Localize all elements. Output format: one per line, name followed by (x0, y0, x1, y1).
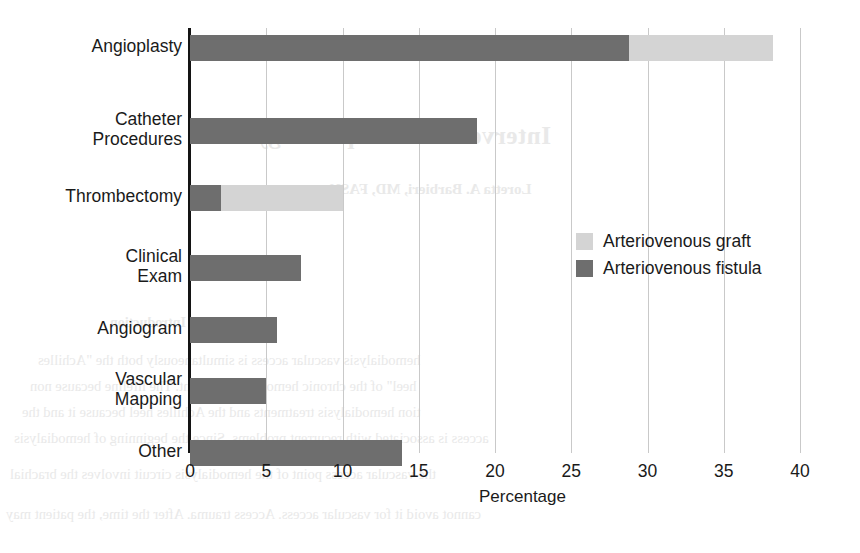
y-category-label: Thrombectomy (65, 186, 182, 206)
y-category-label: Catheter Procedures (93, 109, 183, 149)
x-axis-title: Percentage (0, 487, 860, 507)
x-tick-label-20: 20 (485, 461, 504, 482)
x-tick-label-5: 5 (261, 461, 271, 482)
x-tick-label-25: 25 (562, 461, 581, 482)
x-tick-label-15: 15 (409, 461, 428, 482)
bar-segment-fistula[interactable] (190, 35, 629, 61)
bar-segment-fistula[interactable] (190, 255, 301, 281)
bar-segment-graft[interactable] (221, 185, 343, 211)
bar-row[interactable] (190, 185, 343, 211)
legend-label-fistula: Arteriovenous fistula (603, 258, 762, 279)
bar-chart: Percentage Arteriovenous graft Arteriove… (0, 0, 860, 553)
bar-row[interactable] (190, 118, 477, 144)
bar-segment-fistula[interactable] (190, 118, 477, 144)
legend-item-fistula[interactable]: Arteriovenous fistula (576, 255, 762, 282)
chart-legend: Arteriovenous graft Arteriovenous fistul… (576, 228, 762, 282)
bar-row[interactable] (190, 378, 266, 404)
y-category-label: Clinical Exam (126, 246, 182, 286)
gridline-25 (571, 28, 572, 453)
bar-segment-fistula[interactable] (190, 317, 277, 343)
legend-item-graft[interactable]: Arteriovenous graft (576, 228, 762, 255)
x-tick-label-40: 40 (790, 461, 809, 482)
bar-segment-fistula[interactable] (190, 378, 266, 404)
bar-row[interactable] (190, 35, 773, 61)
y-category-label: Angiogram (97, 318, 182, 338)
bar-segment-fistula[interactable] (190, 440, 402, 466)
bar-row[interactable] (190, 317, 277, 343)
x-axis-title-text: Percentage (479, 487, 566, 506)
legend-swatch-fistula (576, 260, 593, 277)
y-category-label: Angioplasty (92, 36, 182, 56)
legend-swatch-graft (576, 233, 593, 250)
y-category-label: Other (138, 441, 182, 461)
x-tick-label-0: 0 (185, 461, 195, 482)
x-tick-label-35: 35 (714, 461, 733, 482)
bar-segment-fistula[interactable] (190, 185, 221, 211)
bar-row[interactable] (190, 255, 301, 281)
bar-row[interactable] (190, 440, 402, 466)
bar-segment-graft[interactable] (629, 35, 772, 61)
y-category-label: Vascular Mapping (115, 369, 182, 409)
gridline-40 (800, 28, 801, 453)
gridline-20 (495, 28, 496, 453)
legend-label-graft: Arteriovenous graft (603, 231, 751, 252)
gridline-15 (419, 28, 420, 453)
x-tick-label-10: 10 (333, 461, 352, 482)
gridline-5 (266, 28, 267, 453)
gridline-10 (343, 28, 344, 453)
x-tick-label-30: 30 (638, 461, 657, 482)
